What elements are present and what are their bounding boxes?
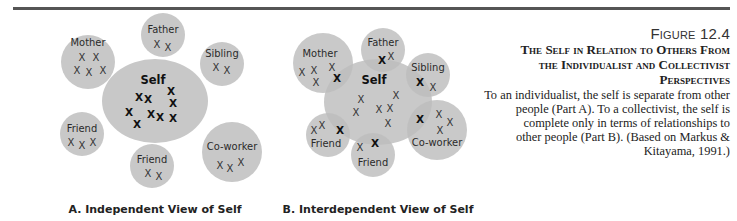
bold-x-mark: X — [144, 93, 152, 105]
bold-x-mark: X — [147, 108, 155, 120]
circle-label: Sibling — [411, 61, 444, 74]
x-mark: X — [388, 51, 395, 62]
part-b-caption: B. Interdependent View of Self — [283, 203, 474, 216]
x-mark: X — [430, 82, 437, 93]
figure-title-line: The Self in Relation to Others From — [480, 42, 730, 57]
x-mark: X — [93, 52, 100, 63]
figure-description-line: complete only in terms of relationships … — [480, 116, 730, 130]
x-mark: X — [227, 163, 234, 174]
part-a-mother-circle: Mother X X X X X — [61, 35, 115, 89]
bold-x-mark: X — [416, 76, 424, 88]
x-mark: X — [376, 104, 383, 115]
circle-label: Co-worker — [207, 140, 258, 153]
part-b-sibling-circle — [406, 53, 450, 97]
circle-label: Friend — [67, 122, 97, 135]
x-mark: X — [154, 39, 161, 50]
x-mark: X — [393, 90, 400, 101]
part-a-coworker-circle: Co-worker X X X — [202, 122, 262, 182]
x-mark: X — [79, 140, 86, 151]
bold-x-mark: X — [169, 97, 177, 109]
x-mark: X — [358, 94, 365, 105]
x-mark: X — [217, 160, 224, 171]
x-mark: X — [437, 125, 444, 136]
circle-label: Friend — [311, 137, 341, 150]
circle-label: Mother — [303, 47, 339, 60]
bold-x-mark: X — [378, 54, 386, 66]
circle-label: Co-worker — [412, 136, 463, 149]
circle-label: Friend — [137, 153, 167, 166]
x-mark: X — [299, 67, 306, 78]
bold-x-mark: X — [135, 91, 143, 103]
circle-label: Mother — [71, 36, 107, 49]
bold-x-mark: X — [125, 106, 133, 118]
x-mark: X — [311, 125, 318, 136]
circle-label: Father — [367, 36, 399, 49]
x-mark: X — [224, 65, 231, 76]
bold-x-mark: X — [371, 137, 379, 149]
x-mark: X — [385, 118, 392, 129]
x-mark: X — [165, 42, 172, 53]
figure-description-line: other people (Part B). (Based on Markus … — [480, 130, 730, 144]
x-mark: X — [447, 117, 454, 128]
figure-description-line: To an individualist, the self is separat… — [480, 88, 730, 102]
x-mark: X — [90, 137, 97, 148]
x-mark: X — [213, 62, 220, 73]
bold-x-mark: X — [333, 72, 341, 84]
part-a-friend-left-circle: Friend X X X — [60, 112, 104, 156]
x-mark: X — [86, 67, 93, 78]
bold-x-mark: X — [156, 111, 164, 123]
part-a-self-ellipse: Self X X X X X X X X X — [102, 59, 208, 143]
circle-label: Friend — [358, 156, 388, 169]
bold-x-mark: X — [167, 85, 175, 97]
x-mark: X — [387, 103, 394, 114]
figure-number: Figure 12.4 — [480, 25, 730, 42]
x-mark: X — [79, 52, 86, 63]
figure-title-line: Perspectives — [480, 72, 730, 87]
circle-label: Sibling — [205, 47, 238, 60]
figure-caption-block: Figure 12.4 The Self in Relation to Othe… — [480, 25, 730, 158]
bold-x-mark: X — [336, 124, 344, 136]
part-b-mother-circle — [293, 33, 353, 93]
circle-label: Father — [147, 23, 179, 36]
x-mark: X — [353, 107, 360, 118]
bold-x-mark: X — [416, 113, 424, 125]
x-mark: X — [74, 65, 81, 76]
self-label: Self — [361, 73, 387, 87]
figure-title-line: the Individualist and Collectivist — [480, 57, 730, 72]
bold-x-mark: X — [169, 112, 177, 124]
x-mark: X — [145, 168, 152, 179]
part-b-interdependent: Mother Father Sibling Friend Friend Co-w… — [283, 28, 474, 216]
x-mark: X — [100, 65, 107, 76]
part-a-friend-bottom-circle: Friend X X — [130, 144, 174, 188]
bold-x-mark: X — [133, 118, 141, 130]
x-mark: X — [357, 142, 364, 153]
x-mark: X — [68, 137, 75, 148]
part-a-caption: A. Independent View of Self — [68, 203, 241, 216]
figure-description: To an individualist, the self is separat… — [480, 88, 730, 158]
x-mark: X — [238, 157, 245, 168]
part-a-father-circle: Father X X — [141, 13, 185, 57]
x-mark: X — [313, 77, 320, 88]
figure-title: The Self in Relation to Others From the … — [480, 42, 730, 87]
x-mark: X — [319, 120, 326, 131]
x-mark: X — [311, 65, 318, 76]
x-mark: X — [156, 171, 163, 182]
x-mark: X — [436, 109, 443, 120]
figure-description-line: Kitayama, 1991.) — [480, 144, 730, 158]
part-a-independent: Mother X X X X X Father X X Sibling X X … — [60, 13, 262, 216]
part-a-sibling-circle: Sibling X X — [200, 42, 244, 86]
figure-description-line: people (Part A). To a collectivist, the … — [480, 102, 730, 116]
self-label: Self — [140, 73, 166, 87]
